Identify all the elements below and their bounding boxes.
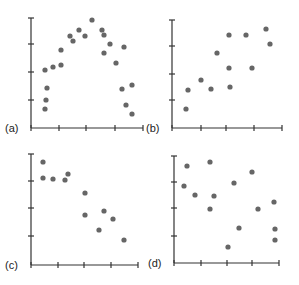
- data-point: [249, 169, 254, 174]
- panel-label: (d): [148, 257, 161, 269]
- data-point: [185, 87, 190, 92]
- data-point: [181, 183, 186, 188]
- data-point: [211, 193, 216, 198]
- data-point: [236, 225, 241, 230]
- data-point: [121, 237, 126, 242]
- scatter-panel-a: (a): [5, 17, 143, 134]
- data-point: [226, 65, 231, 70]
- data-point: [107, 41, 112, 46]
- data-point: [129, 111, 134, 116]
- data-point: [76, 27, 81, 32]
- data-point: [50, 176, 55, 181]
- data-point: [99, 27, 104, 32]
- data-point: [101, 50, 106, 55]
- data-point: [96, 227, 101, 232]
- data-point: [40, 159, 45, 164]
- data-point: [58, 47, 63, 52]
- data-point: [89, 17, 94, 22]
- scatter-plot-grid: (a)(b)(c)(d): [0, 0, 299, 285]
- data-point: [42, 106, 47, 111]
- data-point: [58, 62, 63, 67]
- data-point: [192, 192, 197, 197]
- data-point: [123, 102, 128, 107]
- panel-label: (c): [5, 259, 18, 271]
- data-point: [121, 44, 126, 49]
- panel-label: (b): [146, 122, 159, 134]
- data-point: [225, 244, 230, 249]
- data-point: [271, 199, 276, 204]
- data-point: [207, 206, 212, 211]
- data-point: [272, 237, 277, 242]
- data-point: [42, 67, 47, 72]
- data-point: [227, 84, 232, 89]
- data-point: [207, 159, 212, 164]
- data-point: [101, 208, 106, 213]
- data-point: [119, 86, 124, 91]
- data-point: [82, 33, 87, 38]
- data-point: [129, 82, 134, 87]
- data-point: [44, 85, 49, 90]
- data-point: [208, 86, 213, 91]
- data-point: [243, 32, 248, 37]
- data-point: [82, 190, 87, 195]
- scatter-panel-c: (c): [5, 154, 138, 271]
- scatter-panel-d: (d): [148, 156, 279, 269]
- panel-label: (a): [5, 122, 18, 134]
- data-point: [62, 177, 67, 182]
- data-point: [226, 32, 231, 37]
- data-point: [263, 26, 268, 31]
- data-point: [82, 212, 87, 217]
- data-point: [272, 226, 277, 231]
- data-point: [67, 33, 72, 38]
- scatter-panel-b: (b): [146, 20, 282, 134]
- data-point: [65, 171, 70, 176]
- data-point: [70, 38, 75, 43]
- data-point: [183, 106, 188, 111]
- data-point: [113, 60, 118, 65]
- data-point: [231, 180, 236, 185]
- data-point: [50, 64, 55, 69]
- data-point: [255, 206, 260, 211]
- data-point: [184, 163, 189, 168]
- data-point: [101, 32, 106, 37]
- data-point: [40, 175, 45, 180]
- data-point: [267, 41, 272, 46]
- data-point: [214, 50, 219, 55]
- data-point: [198, 77, 203, 82]
- data-point: [249, 65, 254, 70]
- data-point: [110, 216, 115, 221]
- data-point: [43, 97, 48, 102]
